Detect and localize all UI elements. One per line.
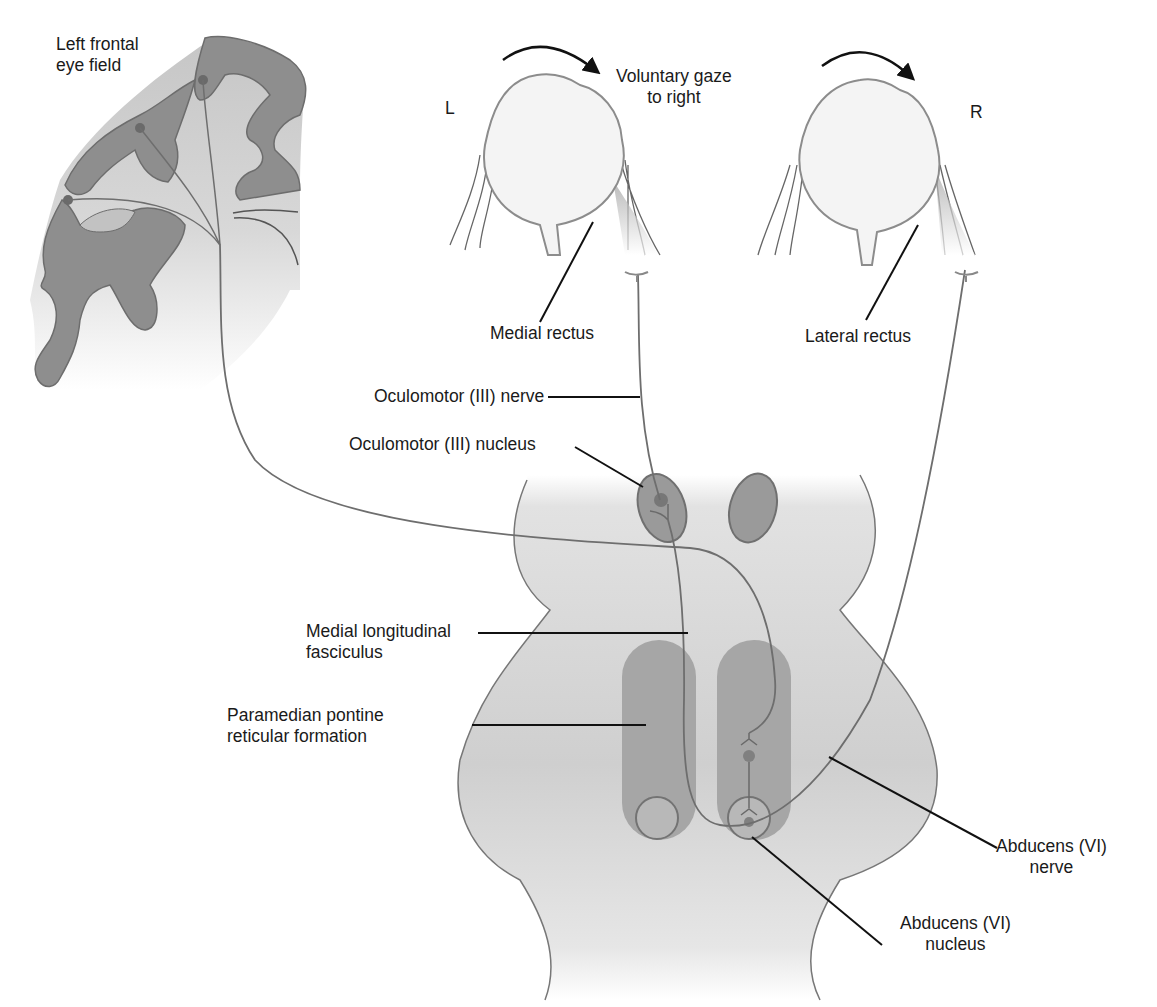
label-medial-rectus: Medial rectus bbox=[490, 323, 594, 344]
label-line: Paramedian pontine bbox=[227, 705, 384, 726]
label-oculomotor-nucleus: Oculomotor (III) nucleus bbox=[349, 434, 536, 455]
brainstem bbox=[458, 475, 937, 1000]
label-right-eye: R bbox=[970, 102, 983, 123]
label-line: fasciculus bbox=[306, 642, 451, 663]
gaze-arrow-left bbox=[503, 47, 595, 70]
label-voluntary-gaze: Voluntary gaze to right bbox=[616, 66, 732, 108]
label-abducens-nerve: Abducens (VI) nerve bbox=[996, 836, 1107, 878]
label-line: Left frontal bbox=[56, 34, 139, 55]
frontal-cortex bbox=[30, 37, 306, 390]
label-line: reticular formation bbox=[227, 726, 384, 747]
label-mlf: Medial longitudinal fasciculus bbox=[306, 621, 451, 663]
label-abducens-nucleus: Abducens (VI) nucleus bbox=[900, 913, 1011, 955]
gaze-pathway-diagram bbox=[0, 0, 1157, 1007]
label-line: nerve bbox=[996, 857, 1107, 878]
label-line: Voluntary gaze bbox=[616, 66, 732, 87]
label-left-eye: L bbox=[445, 98, 455, 119]
label-line: nucleus bbox=[900, 934, 1011, 955]
label-line: Abducens (VI) bbox=[900, 913, 1011, 934]
label-frontal-eye-field: Left frontal eye field bbox=[56, 34, 139, 76]
label-lateral-rectus: Lateral rectus bbox=[805, 326, 911, 347]
label-line: eye field bbox=[56, 55, 139, 76]
gaze-arrow-right bbox=[822, 52, 910, 76]
label-line: Medial longitudinal bbox=[306, 621, 451, 642]
label-line: to right bbox=[616, 87, 732, 108]
label-pprf: Paramedian pontine reticular formation bbox=[227, 705, 384, 747]
label-line: Abducens (VI) bbox=[996, 836, 1107, 857]
label-oculomotor-nerve: Oculomotor (III) nerve bbox=[374, 386, 544, 407]
right-eye bbox=[758, 79, 978, 282]
